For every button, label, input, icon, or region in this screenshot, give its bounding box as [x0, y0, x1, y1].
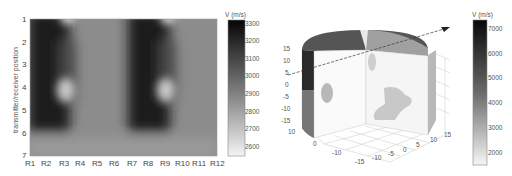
- z-tick: -15: [281, 117, 290, 124]
- x-tick-3d: 5: [416, 141, 420, 148]
- colorbar-tick: 2000: [488, 149, 502, 156]
- y-tick: 4: [22, 84, 26, 92]
- x-tick: R3: [59, 160, 69, 168]
- colorbar-tick: 5000: [488, 74, 502, 81]
- y-tick-3d: 10: [288, 128, 295, 135]
- colorbar-tick: 6000: [488, 50, 502, 57]
- colorbar-title: V (m/s): [472, 11, 493, 18]
- x-tick: R9: [160, 160, 170, 168]
- colorbar-tick: 7000: [488, 25, 502, 32]
- x-tick: R7: [127, 160, 137, 168]
- x-tick: R8: [143, 160, 153, 168]
- colorbar-tick: 3300: [245, 20, 259, 27]
- y-tick: 6: [22, 130, 26, 138]
- z-tick: 10: [283, 57, 290, 64]
- z-tick: -10: [281, 105, 290, 112]
- x-tick-3d: -5: [388, 150, 394, 157]
- y-tick: 5: [22, 107, 26, 115]
- x-tick: R2: [41, 160, 51, 168]
- x-tick-3d: -15: [355, 158, 364, 165]
- x-tick: R10: [175, 160, 190, 168]
- x-tick: R4: [75, 160, 85, 168]
- x-tick-3d: 10: [430, 136, 437, 143]
- x-tick: R11: [192, 160, 206, 168]
- y-axis-label: transmitter/receiver position: [12, 47, 19, 133]
- colorbar-title: V (m/s): [225, 11, 246, 18]
- y-tick: 3: [22, 61, 26, 69]
- colorbar-tick: 2900: [245, 90, 259, 97]
- z-tick: 0: [285, 81, 289, 88]
- colorbar-tick: 2800: [245, 108, 259, 115]
- y-tick-3d: -10: [332, 149, 341, 156]
- y-tick-3d: 0: [313, 140, 317, 147]
- z-tick: 15: [283, 45, 290, 52]
- colorbar-tick: 2700: [245, 125, 259, 132]
- colorbar-right: [473, 20, 487, 165]
- x-tick-3d: -10: [372, 154, 381, 161]
- x-tick-3d: 15: [444, 131, 451, 138]
- z-tick: -5: [283, 93, 289, 100]
- colorbar-left: [228, 20, 245, 156]
- x-tick: R5: [92, 160, 102, 168]
- colorbar-tick: 3000: [245, 72, 259, 79]
- x-tick: R1: [25, 160, 35, 168]
- x-tick-3d: 0: [403, 146, 407, 153]
- y-tick: 1: [22, 16, 26, 24]
- colorbar-tick: 4000: [488, 99, 502, 106]
- colorbar-tick: 3200: [245, 37, 259, 44]
- colorbar-tick: 2600: [245, 143, 259, 150]
- colorbar-tick: 3100: [245, 55, 259, 62]
- z-tick: 5: [285, 69, 289, 76]
- x-tick: R12: [210, 160, 225, 168]
- colorbar-tick: 3000: [488, 124, 502, 131]
- x-tick: R6: [109, 160, 119, 168]
- y-tick: 2: [22, 39, 26, 47]
- heatmap-image: [28, 12, 218, 158]
